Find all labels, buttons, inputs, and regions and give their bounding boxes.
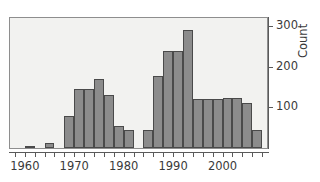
x-tick-2000 bbox=[223, 152, 224, 157]
bar-1970 bbox=[74, 89, 84, 148]
bar-1998 bbox=[213, 99, 223, 148]
bar-1980 bbox=[124, 130, 134, 148]
x-tick-1996 bbox=[203, 152, 204, 157]
x-tick-1998 bbox=[213, 152, 214, 157]
bar-1988 bbox=[163, 51, 173, 149]
bar-2004 bbox=[242, 103, 252, 148]
x-tick-1972 bbox=[84, 152, 85, 157]
bar-1978 bbox=[114, 126, 124, 148]
x-tick-1980 bbox=[124, 152, 125, 157]
bar-1994 bbox=[193, 99, 203, 148]
x-tick-label-1990: 1990 bbox=[158, 160, 187, 172]
y-tick-label-100: 100 bbox=[276, 101, 298, 112]
x-tick-1984 bbox=[143, 152, 144, 157]
y-tick-100 bbox=[268, 107, 273, 108]
x-tick-1992 bbox=[183, 152, 184, 157]
y-axis-title: Count bbox=[296, 24, 310, 58]
x-tick-1966 bbox=[54, 152, 55, 157]
x-axis-line bbox=[9, 152, 269, 153]
x-tick-2004 bbox=[242, 152, 243, 157]
x-tick-2002 bbox=[232, 152, 233, 157]
x-tick-label-1980: 1980 bbox=[109, 160, 138, 172]
x-tick-1978 bbox=[114, 152, 115, 157]
bar-1972 bbox=[84, 89, 94, 148]
x-tick-1964 bbox=[45, 152, 46, 157]
y-axis-line bbox=[268, 17, 269, 149]
y-tick-300 bbox=[268, 26, 273, 27]
bar-1964 bbox=[45, 143, 55, 148]
bar-1990 bbox=[173, 51, 183, 149]
y-tick-label-200: 200 bbox=[276, 61, 298, 72]
bar-1996 bbox=[203, 99, 213, 148]
x-tick-1960 bbox=[25, 152, 26, 157]
bar-2002 bbox=[232, 98, 242, 148]
x-tick-1994 bbox=[193, 152, 194, 157]
bar-1976 bbox=[104, 95, 114, 148]
y-tick-label-300: 300 bbox=[276, 20, 298, 31]
bar-1986 bbox=[153, 76, 163, 148]
bar-1968 bbox=[64, 116, 74, 149]
x-tick-label-1970: 1970 bbox=[60, 160, 89, 172]
x-tick-1968 bbox=[64, 152, 65, 157]
x-tick-1988 bbox=[163, 152, 164, 157]
x-tick-1970 bbox=[74, 152, 75, 157]
x-tick-1982 bbox=[134, 152, 135, 157]
x-tick-2008 bbox=[262, 152, 263, 157]
bar-1992 bbox=[183, 30, 193, 148]
x-tick-1976 bbox=[104, 152, 105, 157]
bar-1960 bbox=[25, 146, 35, 148]
x-tick-1974 bbox=[94, 152, 95, 157]
bar-2006 bbox=[252, 130, 262, 148]
x-tick-1990 bbox=[173, 152, 174, 157]
bar-1974 bbox=[94, 79, 104, 148]
histogram-chart: 100200300 Count 19601970198019902000 bbox=[0, 0, 320, 182]
x-tick-1962 bbox=[35, 152, 36, 157]
x-tick-2006 bbox=[252, 152, 253, 157]
y-tick-200 bbox=[268, 67, 273, 68]
x-tick-label-1960: 1960 bbox=[10, 160, 39, 172]
bar-1984 bbox=[143, 130, 153, 148]
bars-container bbox=[10, 18, 267, 148]
plot-panel bbox=[9, 17, 268, 149]
bar-2000 bbox=[223, 98, 233, 148]
x-tick-1958 bbox=[15, 152, 16, 157]
x-tick-1986 bbox=[153, 152, 154, 157]
x-tick-label-2000: 2000 bbox=[208, 160, 237, 172]
